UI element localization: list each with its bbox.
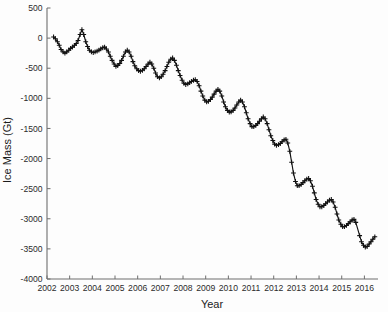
data-point-marker	[242, 104, 247, 109]
data-point-marker	[287, 149, 292, 154]
x-tick-label: 2010	[219, 283, 238, 293]
data-point-marker	[265, 121, 270, 126]
data-point-marker	[246, 116, 251, 121]
data-point-marker	[174, 63, 179, 68]
x-tick-label: 2007	[151, 283, 170, 293]
chart-figure: 5000-500-1000-1500-2000-2500-3000-3500-4…	[0, 0, 388, 312]
data-point-marker	[80, 27, 85, 32]
y-tick-label: -3500	[21, 244, 43, 254]
x-tick-label: 2003	[60, 283, 79, 293]
data-point-marker	[83, 39, 88, 44]
x-tick-label: 2011	[242, 283, 261, 293]
data-point-marker	[121, 54, 126, 59]
ice-mass-line-chart: 5000-500-1000-1500-2000-2500-3000-3500-4…	[0, 0, 388, 312]
data-point-marker	[131, 59, 136, 64]
data-point-marker	[244, 110, 249, 115]
x-tick-label: 2009	[196, 283, 215, 293]
data-point-marker	[291, 171, 296, 176]
data-series-line	[54, 30, 375, 247]
data-point-marker	[165, 64, 170, 69]
y-tick-label: 0	[38, 33, 43, 43]
x-axis-title: Year	[201, 298, 224, 310]
data-point-marker	[357, 233, 362, 238]
x-tick-label: 2014	[309, 283, 328, 293]
data-point-marker	[178, 73, 183, 78]
y-tick-label: -1500	[21, 124, 43, 134]
data-point-marker	[333, 205, 338, 210]
x-tick-label: 2013	[287, 283, 306, 293]
x-tick-label: 2005	[105, 283, 124, 293]
data-point-marker	[289, 160, 294, 165]
y-tick-label: -500	[25, 63, 42, 73]
x-tick-label: 2015	[332, 283, 351, 293]
data-point-marker	[221, 100, 226, 105]
data-point-marker	[81, 32, 86, 37]
data-point-marker	[336, 218, 341, 223]
data-point-marker	[293, 179, 298, 184]
data-point-marker	[312, 190, 317, 195]
data-point-marker	[151, 66, 156, 71]
data-point-marker	[129, 54, 134, 59]
x-tick-label: 2008	[173, 283, 192, 293]
x-tick-label: 2016	[355, 283, 374, 293]
data-point-marker	[199, 89, 204, 94]
y-tick-label: -3000	[21, 214, 43, 224]
y-tick-label: 500	[28, 3, 43, 13]
x-tick-label: 2002	[37, 283, 56, 293]
data-point-marker	[310, 184, 315, 189]
data-point-marker	[197, 83, 202, 88]
data-point-marker	[176, 68, 181, 73]
y-tick-label: -2500	[21, 184, 43, 194]
x-tick-label: 2004	[83, 283, 102, 293]
x-tick-label: 2012	[264, 283, 283, 293]
y-tick-label: -1000	[21, 93, 43, 103]
x-axis-ticks: 2002200320042005200620072008200920102011…	[37, 276, 374, 294]
x-tick-label: 2006	[128, 283, 147, 293]
data-point-marker	[335, 212, 340, 217]
data-point-marker	[268, 133, 273, 138]
y-axis-ticks: 5000-500-1000-1500-2000-2500-3000-3500-4…	[21, 3, 51, 284]
data-point-marker	[219, 94, 224, 99]
data-point-marker	[267, 127, 272, 132]
y-tick-label: -2000	[21, 154, 43, 164]
data-series-markers	[51, 27, 377, 249]
data-point-marker	[108, 54, 113, 59]
data-point-marker	[314, 197, 319, 202]
data-point-marker	[200, 94, 205, 99]
y-axis-title: Ice Mass (Gt)	[1, 117, 13, 183]
